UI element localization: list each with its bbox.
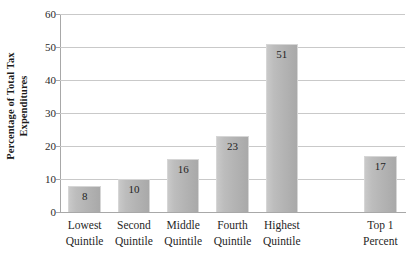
y-axis-tick: [56, 212, 60, 213]
bar-value-label: 8: [68, 191, 101, 202]
x-axis-category-label-line: Quintile: [159, 233, 208, 249]
y-axis-tick-label: 20: [30, 141, 56, 151]
x-axis-category-label-line: Quintile: [109, 233, 158, 249]
bar-series: 81016235117: [60, 14, 405, 212]
bar-slot: 10: [118, 14, 151, 212]
bar-value-label: 16: [167, 164, 200, 175]
x-axis-category-label-line: Quintile: [60, 233, 109, 249]
y-axis-title-line-1: Percentage of Total Tax: [4, 52, 17, 159]
bar: [266, 44, 299, 212]
x-axis-category-label-line: Quintile: [208, 233, 257, 249]
bar-value-label: 23: [216, 141, 249, 152]
x-axis-category-labels: LowestQuintileSecondQuintileMiddleQuinti…: [60, 217, 405, 259]
y-axis-tick-label: 30: [30, 108, 56, 118]
y-axis-tick-labels: 0102030405060: [28, 0, 56, 262]
bar-slot: 8: [68, 14, 101, 212]
bar-slot: 51: [266, 14, 299, 212]
bar-value-label: 17: [364, 161, 397, 172]
x-axis-category-label: Top 1Percent: [356, 217, 405, 249]
x-axis-category-label: LowestQuintile: [60, 217, 109, 249]
x-axis-category-label-line: Highest: [257, 217, 306, 233]
x-axis-category-label-line: Fourth: [208, 217, 257, 233]
y-axis-tick-label: 0: [30, 207, 56, 217]
y-axis-tick-label: 10: [30, 174, 56, 184]
bar-value-label: 51: [266, 49, 299, 60]
bar-slot: 17: [364, 14, 397, 212]
x-axis-category-label: FourthQuintile: [208, 217, 257, 249]
y-axis-tick-label: 40: [30, 75, 56, 85]
x-axis-category-label: SecondQuintile: [109, 217, 158, 249]
bar-slot: 16: [167, 14, 200, 212]
bar-value-label: 10: [118, 184, 151, 195]
x-axis-category-label-line: Quintile: [257, 233, 306, 249]
x-axis-category-label-line: Second: [109, 217, 158, 233]
y-axis-tick-label: 50: [30, 42, 56, 52]
y-axis-tick-label: 60: [30, 9, 56, 19]
x-axis-category-label: MiddleQuintile: [159, 217, 208, 249]
x-axis-category-label-line: Middle: [159, 217, 208, 233]
bar-chart: Percentage of Total Tax Expenditures 010…: [0, 0, 413, 262]
x-axis-line: [60, 212, 406, 213]
x-axis-category-label-line: Lowest: [60, 217, 109, 233]
plot-area: 81016235117: [60, 14, 405, 212]
x-axis-category-label-line: Top 1: [356, 217, 405, 233]
bar-slot: 23: [216, 14, 249, 212]
x-axis-category-label: HighestQuintile: [257, 217, 306, 249]
x-axis-category-label-line: Percent: [356, 233, 405, 249]
